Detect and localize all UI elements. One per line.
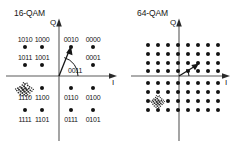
point-1001 — [40, 63, 44, 67]
label-0001: 0001 — [86, 54, 101, 61]
point-0111 — [69, 108, 73, 112]
label-1111: 1111 — [18, 116, 31, 123]
label-0010: 0010 — [64, 36, 79, 43]
noise-cloud-64qam — [150, 95, 165, 108]
label-1101: 1101 — [35, 116, 49, 123]
i-axis-label-16qam: I — [112, 79, 114, 87]
i-axis-label-64qam: I — [225, 79, 227, 87]
point-1010 — [23, 45, 27, 49]
point-0101 — [91, 108, 95, 112]
q-axis-label-16qam: Q — [50, 19, 56, 27]
point-0110 — [69, 86, 73, 90]
point-1100 — [40, 86, 44, 90]
phasor-label-0011: 0011 — [68, 67, 82, 74]
axes-64qam — [131, 19, 230, 142]
panel-16qam: 16-QAM — [0, 0, 121, 149]
label-0000: 0000 — [86, 36, 101, 43]
label-0110: 0110 — [64, 94, 78, 101]
point-1111 — [23, 108, 27, 112]
label-1010: 1010 — [18, 36, 33, 43]
label-1000: 1000 — [35, 36, 50, 43]
chart-16qam-graphics — [0, 0, 121, 149]
label-1001: 1001 — [35, 54, 50, 61]
point-1101 — [40, 108, 44, 112]
qam-constellation-figure: 16-QAM — [0, 0, 242, 149]
q-axis-arrowhead-64qam — [176, 19, 182, 27]
point-1000 — [40, 45, 44, 49]
chart-64qam-graphics — [121, 0, 242, 149]
point-1011 — [23, 63, 27, 67]
label-0101: 0101 — [86, 116, 101, 123]
label-1100: 1100 — [35, 94, 49, 101]
phasor-line-64qam — [179, 67, 195, 77]
label-1110: 1110 — [18, 94, 32, 101]
point-0100 — [91, 86, 95, 90]
label-0100: 0100 — [86, 94, 101, 101]
label-1011: 1011 — [18, 54, 32, 61]
q-axis-arrowhead-16qam — [56, 19, 62, 27]
point-0001 — [91, 63, 95, 67]
q-axis-label-64qam: Q — [170, 19, 176, 27]
panel-64qam: 64-QAM — [121, 0, 242, 149]
label-0111: 0111 — [64, 116, 78, 123]
point-0000 — [91, 45, 95, 49]
phasor-arrow-64qam — [179, 64, 199, 77]
